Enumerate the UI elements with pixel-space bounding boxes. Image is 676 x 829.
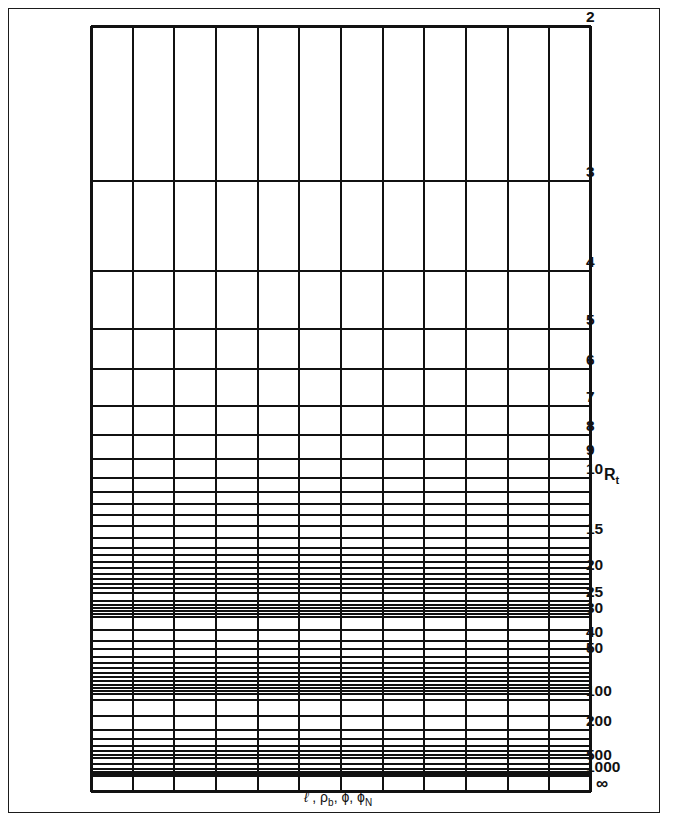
minor-gridline-60 [91,667,591,668]
major-gridline-4 [91,270,591,272]
minor-gridline-55 [91,662,591,663]
y-tick-label-10: 10 [586,461,603,477]
y-tick-label-4: 4 [586,254,595,270]
minor-gridline-80 [91,684,591,685]
y-axis-title: Rt [604,466,619,486]
minor-gridline-85 [91,687,591,688]
x-axis-sep-3: , [349,789,357,805]
minor-gridline-95 [91,693,591,694]
y-tick-label-25: 25 [586,584,603,600]
minor-gridline-26 [91,604,591,605]
x-axis-symbol-phi-n: ϕN [357,789,372,805]
major-gridline-25 [91,600,591,602]
y-tick-label-200: 200 [586,713,612,729]
x-axis-symbol-rho: ρb [320,789,334,805]
minor-gridline-450 [91,757,591,758]
major-gridline-5 [91,328,591,330]
minor-gridline-11 [91,491,591,492]
y-tick-label-100: 100 [586,683,612,699]
minor-gridline-65 [91,672,591,673]
chart-page: 23456789101520253040501002005001000∞ Rt … [0,0,676,829]
minor-gridline-300 [91,745,591,746]
minor-gridline-27 [91,607,591,608]
major-gridline-20 [91,573,591,575]
minor-gridline-350 [91,750,591,751]
minor-gridline-23 [91,587,591,588]
major-gridline-3 [91,180,591,182]
major-gridline-2 [91,25,591,27]
y-tick-label-30: 30 [586,600,603,616]
y-tick-label-6: 6 [586,352,595,368]
y-tick-label-9: 9 [586,442,595,458]
minor-gridline-900 [91,774,591,775]
y-tick-label-40: 40 [586,624,603,640]
minor-gridline-14 [91,525,591,526]
minor-gridline-45 [91,648,591,649]
major-gridline-200 [91,729,591,731]
minor-gridline-75 [91,680,591,681]
minor-gridline-22 [91,583,591,584]
major-gridline-500 [91,763,591,765]
minor-gridline-150 [91,715,591,716]
minor-gridline-19 [91,567,591,568]
y-tick-label-15: 15 [586,521,603,537]
y-tick-label-5: 5 [586,312,595,328]
major-gridline-8 [91,434,591,436]
minor-gridline-90 [91,690,591,691]
major-gridline-9 [91,458,591,460]
major-gridline-40 [91,640,591,642]
major-gridline-7 [91,405,591,407]
y-axis-tick-labels: 23456789101520253040501002005001000∞ [586,0,676,829]
minor-gridline-29 [91,613,591,614]
y-tick-label-8: 8 [586,418,595,434]
y-tick-label-3: 3 [586,164,595,180]
minor-gridline-70 [91,676,591,677]
y-tick-label-20: 20 [586,557,603,573]
major-gridline-6 [91,368,591,370]
major-gridline-30 [91,616,591,618]
minor-gridline-13 [91,514,591,515]
major-gridline-50 [91,656,591,658]
major-gridline-100 [91,699,591,701]
figure-frame [8,8,660,813]
minor-gridline-24 [91,592,591,593]
y-axis-title-sub: t [616,474,620,486]
y-tick-label-7: 7 [586,389,595,405]
minor-gridline-400 [91,754,591,755]
y-tick-label-50: 50 [586,640,603,656]
y-tick-label-1000: 1000 [586,759,620,775]
x-axis-sep-1: , [308,789,320,805]
minor-gridline-250 [91,738,591,739]
minor-gridline-21 [91,578,591,579]
minor-gridline-17 [91,554,591,555]
minor-gridline-35 [91,629,591,630]
minor-gridline-28 [91,610,591,611]
minor-gridline-12 [91,503,591,504]
plot-area [91,26,591,792]
minor-gridline-18 [91,561,591,562]
y-axis-title-base: R [604,466,616,483]
major-gridline-15 [91,537,591,539]
minor-gridline-16 [91,547,591,548]
x-axis-title: ℓ , ρb, ϕ, ϕN [0,789,676,808]
minor-gridline-600 [91,768,591,769]
major-gridline-10 [91,477,591,479]
y-tick-label-2: 2 [586,9,595,25]
